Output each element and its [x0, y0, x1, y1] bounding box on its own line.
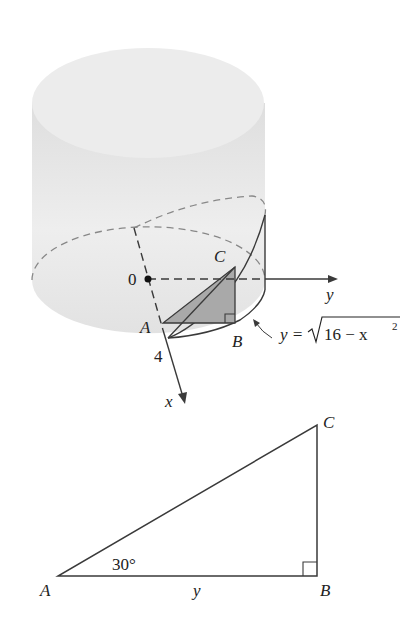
point-b-label: B: [232, 332, 243, 351]
angle-a-label: 30°: [112, 555, 136, 574]
side-ab-label: y: [191, 581, 201, 600]
cylinder-top: [32, 48, 264, 158]
x-axis-label: x: [164, 392, 173, 411]
triangle-c-label: C: [323, 413, 335, 432]
triangle-a-label: A: [39, 581, 51, 600]
origin-point: [145, 276, 152, 283]
y-axis-label: y: [324, 285, 334, 304]
equation-prefix: y =: [278, 325, 303, 344]
point-a-label: A: [139, 318, 151, 337]
x-axis-arrow-icon: [178, 392, 187, 404]
triangle-b-label: B: [320, 581, 331, 600]
triangle-abc: [58, 425, 317, 576]
equation-exponent: 2: [392, 320, 398, 332]
tick-4-label: 4: [154, 347, 163, 366]
equation-pointer: [256, 323, 272, 338]
pointer-arrow-icon: [253, 319, 260, 327]
x-axis: [163, 330, 183, 397]
figure-canvas: 0 y x 4 A B C y = 16 − x 2 A B C y 30°: [0, 0, 405, 625]
triangle-figure: A B C y 30°: [39, 413, 335, 600]
origin-label: 0: [128, 270, 137, 289]
triangle-right-angle-marker: [303, 562, 317, 576]
equation: y = 16 − x 2: [278, 317, 400, 344]
equation-radicand: 16 − x: [324, 325, 368, 344]
point-c-label: C: [214, 247, 226, 266]
y-axis-arrow-icon: [328, 275, 338, 283]
